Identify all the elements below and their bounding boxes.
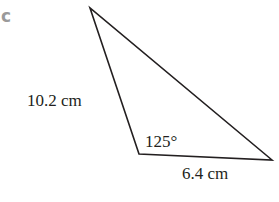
triangle-diagram: 10.2 cm 125° 6.4 cm xyxy=(0,0,279,202)
angle-label: 125° xyxy=(145,132,177,151)
triangle xyxy=(90,8,272,160)
side-bottom-label: 6.4 cm xyxy=(182,164,228,183)
side-left-label: 10.2 cm xyxy=(27,91,82,110)
